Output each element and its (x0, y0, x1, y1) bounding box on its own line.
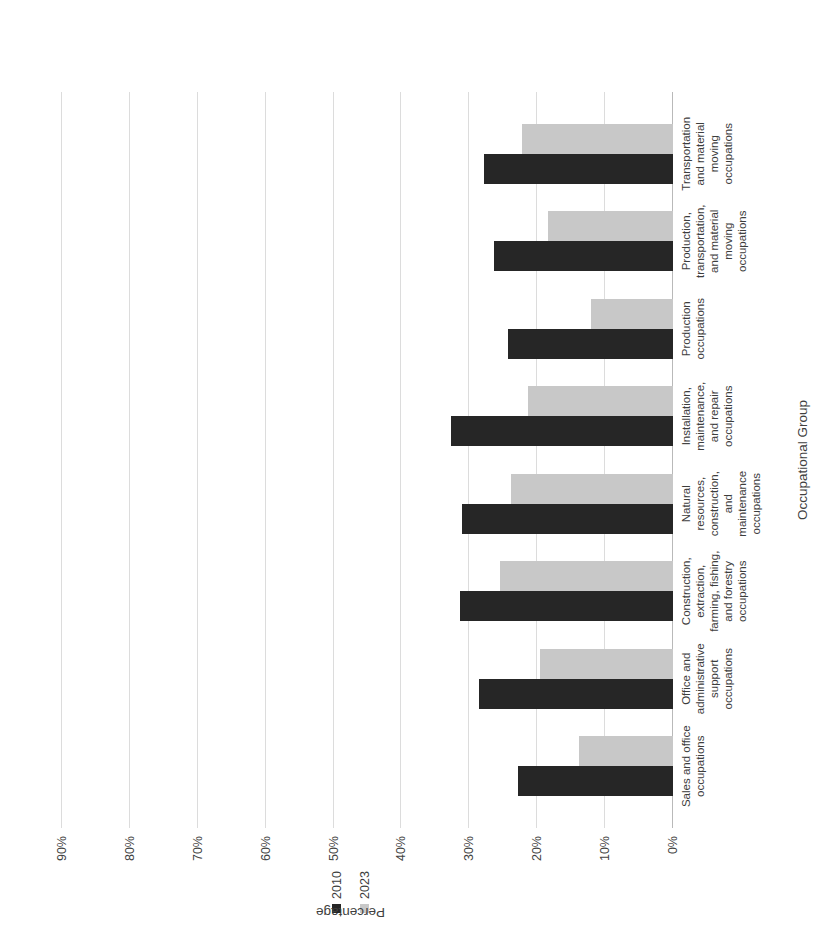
category-tick: Production occupations (673, 285, 791, 373)
bar-2023[interactable] (591, 299, 673, 329)
bar-group (28, 723, 673, 811)
bar-2010[interactable] (484, 154, 673, 184)
bar-2010[interactable] (518, 766, 673, 796)
bar-2010[interactable] (460, 591, 673, 621)
category-label: Production occupations (679, 285, 707, 373)
category-tick: Office and administrative support occupa… (673, 635, 791, 723)
bar-group (28, 285, 673, 373)
bar-2010[interactable] (479, 679, 673, 709)
category-axis-title: Occupational Group (795, 92, 810, 828)
category-label: Installation, maintenance, and repair oc… (679, 373, 735, 461)
category-label: Natural resources, construction, and mai… (679, 460, 763, 548)
chart-legend: 2010 2023 (28, 844, 673, 940)
bar-group (28, 548, 673, 636)
legend-label-2023: 2023 (358, 871, 372, 899)
category-axis: Sales and office occupationsOffice and a… (673, 92, 791, 828)
bar-group (28, 198, 673, 286)
bar-2023[interactable] (528, 386, 673, 416)
rotated-figure-container: 2010 2023 Percentage 0%10%20%30%40%50%60… (0, 0, 826, 940)
bar-group (28, 635, 673, 723)
chart-page: 2010 2023 Percentage 0%10%20%30%40%50%60… (0, 0, 826, 940)
bar-2023[interactable] (548, 211, 673, 241)
bar-group (28, 460, 673, 548)
category-label: Sales and office occupations (679, 723, 707, 811)
legend-label-2010: 2010 (330, 871, 344, 899)
category-tick: Installation, maintenance, and repair oc… (673, 373, 791, 461)
category-label: Office and administrative support occupa… (679, 635, 735, 723)
bar-2010[interactable] (494, 241, 673, 271)
bar-groups (28, 92, 673, 828)
category-tick: Production, transportation, and material… (673, 198, 791, 286)
category-tick: Sales and office occupations (673, 723, 791, 811)
bar-2010[interactable] (508, 329, 673, 359)
bar-chart-figure: 2010 2023 Percentage 0%10%20%30%40%50%60… (0, 0, 826, 940)
bar-2023[interactable] (579, 736, 673, 766)
category-tick: Transportation and material moving occup… (673, 110, 791, 198)
category-label: Construction, extraction, farming, fishi… (679, 548, 749, 636)
bar-2023[interactable] (500, 561, 673, 591)
category-label: Transportation and material moving occup… (679, 110, 735, 198)
category-label: Production, transportation, and material… (679, 198, 749, 286)
category-tick: Natural resources, construction, and mai… (673, 460, 791, 548)
bar-2010[interactable] (462, 504, 673, 534)
bar-2023[interactable] (522, 124, 673, 154)
plot-area (28, 92, 673, 828)
bar-2023[interactable] (540, 649, 673, 679)
category-tick: Construction, extraction, farming, fishi… (673, 548, 791, 636)
bar-2010[interactable] (451, 416, 673, 446)
bar-group (28, 110, 673, 198)
bar-group (28, 373, 673, 461)
value-axis-title-text: Percentage (316, 905, 385, 920)
value-axis-title: Percentage (28, 902, 673, 922)
bar-2023[interactable] (511, 474, 673, 504)
